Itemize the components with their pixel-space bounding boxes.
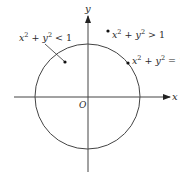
inside-region-label: x2 + y2 < 1 (19, 31, 72, 43)
outside-region-label: x2 + y2 > 1 (112, 28, 165, 40)
inside-point (63, 60, 66, 63)
y-axis-label: y (84, 3, 91, 14)
on-circle-label: x2 + y2 = 1 (132, 54, 180, 66)
origin-label: O (79, 100, 87, 110)
on-circle-point (126, 61, 129, 64)
x-axis-label: x (172, 91, 178, 102)
unit-circle-diagram: y x O x2 + y2 < 1 x2 + y2 > 1 x2 + y2 = … (0, 0, 180, 177)
inside-leader-line (45, 44, 64, 61)
outside-point (106, 29, 109, 32)
